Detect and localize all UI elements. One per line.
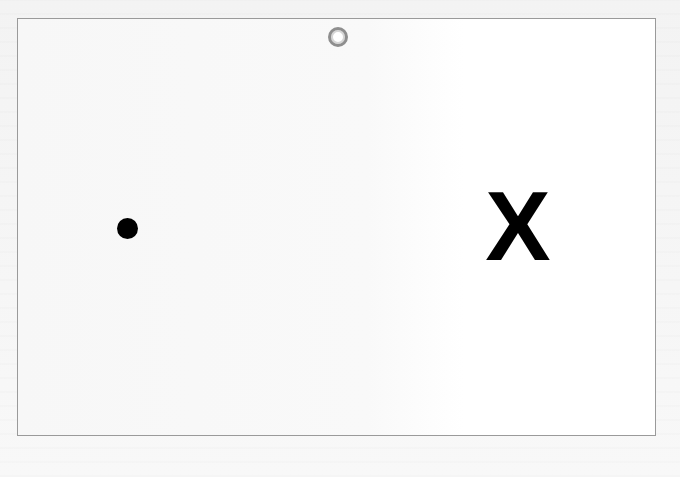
game-card	[17, 18, 656, 436]
ring-icon[interactable]	[328, 27, 348, 47]
x-mark[interactable]: X	[480, 176, 556, 276]
dot-icon[interactable]	[117, 218, 138, 239]
